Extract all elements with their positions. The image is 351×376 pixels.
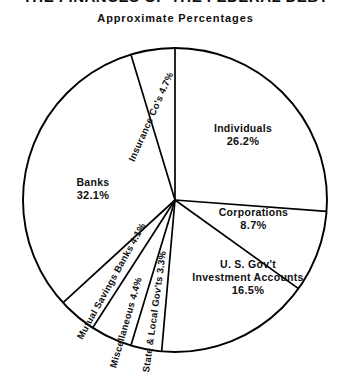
slice-label-corporations: Corporations 8.7% <box>196 206 311 233</box>
slice-label-individuals-pct: 26.2% <box>188 135 298 149</box>
slice-label-corporations-pct: 8.7% <box>196 219 311 233</box>
slice-label-us-gov-line2: Investment Accounts <box>178 271 318 284</box>
slice-label-us-gov-investment-accounts: U. S. Gov't Investment Accounts 16.5% <box>178 258 318 298</box>
slice-label-individuals-name: Individuals <box>188 122 298 135</box>
slice-label-banks: Banks 32.1% <box>48 176 138 203</box>
slice-label-us-gov-line1: U. S. Gov't <box>178 258 318 271</box>
slice-label-us-gov-pct: 16.5% <box>178 284 318 298</box>
chart-canvas: THE FINANCES OF THE FEDERAL DEBT Approxi… <box>0 0 351 376</box>
slice-label-banks-name: Banks <box>48 176 138 189</box>
slice-label-individuals: Individuals 26.2% <box>188 122 298 149</box>
slice-label-banks-pct: 32.1% <box>48 189 138 203</box>
slice-label-corporations-name: Corporations <box>196 206 311 219</box>
